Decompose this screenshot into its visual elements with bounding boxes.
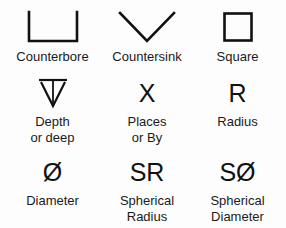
symbol-row: Depth or deep X Places or By R Radius [0, 72, 286, 150]
symbol-label: Diameter [26, 193, 79, 209]
symbol-label: Radius [217, 114, 257, 130]
diameter-glyph: Ø [43, 160, 62, 185]
symbol-cell-spherical-diameter: SØ Spherical Diameter [189, 150, 286, 228]
symbol-row: Ø Diameter SR Spherical Radius SØ Spheri… [0, 150, 286, 228]
symbol-label: Countersink [112, 49, 181, 65]
symbol-cell-radius: R Radius [189, 72, 286, 150]
glyph-container: SØ [189, 150, 286, 190]
countersink-icon [117, 10, 177, 44]
symbol-cell-countersink: Countersink [105, 0, 189, 72]
glyph-container: R [189, 72, 286, 111]
symbol-cell-places: X Places or By [105, 72, 189, 150]
counterbore-icon [26, 10, 80, 44]
depth-icon [36, 77, 70, 109]
symbol-label: Depth or deep [30, 114, 74, 145]
glyph-container: Ø [0, 150, 105, 190]
spherical-radius-glyph: SR [130, 160, 165, 185]
symbol-cell-counterbore: Counterbore [0, 0, 105, 72]
spherical-diameter-glyph: SØ [219, 160, 255, 185]
symbol-label: Counterbore [16, 49, 88, 65]
glyph-container: SR [105, 150, 189, 190]
symbol-cell-square: Square [189, 0, 286, 72]
symbol-cell-diameter: Ø Diameter [0, 150, 105, 228]
symbol-cell-spherical-radius: SR Spherical Radius [105, 150, 189, 228]
glyph-container [0, 0, 105, 48]
symbol-row: Counterbore Countersink Square [0, 0, 286, 72]
symbol-legend-chart: Counterbore Countersink Square [0, 0, 286, 228]
symbol-label: Spherical Radius [120, 193, 174, 224]
places-glyph: X [139, 81, 156, 106]
symbol-label: Square [217, 49, 259, 65]
symbol-label: Spherical Diameter [210, 193, 264, 224]
glyph-container [0, 72, 105, 111]
radius-glyph: R [228, 81, 246, 106]
square-icon [222, 11, 254, 43]
symbol-cell-depth: Depth or deep [0, 72, 105, 150]
glyph-container [105, 0, 189, 48]
glyph-container [189, 0, 286, 48]
glyph-container: X [105, 72, 189, 111]
symbol-label: Places or By [127, 114, 166, 145]
